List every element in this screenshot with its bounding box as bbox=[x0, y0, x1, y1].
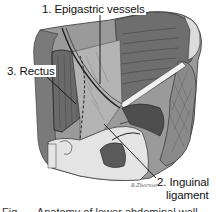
caption-fragment: Fig. — Anatomy of lower abdominal wall bbox=[0, 206, 216, 212]
label-rectus: 3. Rectus bbox=[6, 65, 56, 77]
anatomy-illustration: 1. Epigastric vessels 3. Rectus 2. Ingui… bbox=[0, 0, 216, 212]
label-inguinal-line1: 2. Inguinal bbox=[157, 176, 209, 189]
artist-signature: B.Zbarnier bbox=[131, 183, 158, 188]
label-epigastric-vessels: 1. Epigastric vessels bbox=[41, 3, 146, 15]
label-inguinal-ligament: 2. Inguinal ligament bbox=[156, 176, 210, 202]
label-inguinal-line2: ligament bbox=[157, 189, 209, 202]
